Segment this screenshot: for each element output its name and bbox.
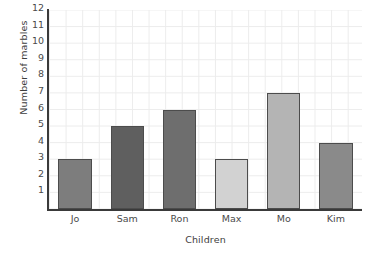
y-tick-label: 1 <box>22 185 44 195</box>
x-tick-label: Jo <box>49 212 101 226</box>
bar-series <box>49 10 362 209</box>
x-tick-label: Ron <box>153 212 205 226</box>
y-tick-label: 7 <box>22 86 44 96</box>
bar-chart: Number of marbles 123456789101112 JoSamR… <box>0 0 370 258</box>
x-tick-label: Mo <box>258 212 310 226</box>
bar-sam <box>111 126 144 209</box>
y-tick-label: 2 <box>22 169 44 179</box>
x-axis-title: Children <box>49 234 362 245</box>
bar-mo <box>267 93 300 209</box>
y-tick-label: 4 <box>22 136 44 146</box>
y-tick-label: 6 <box>22 103 44 113</box>
x-axis-tick-labels: JoSamRonMaxMoKim <box>49 212 362 228</box>
y-axis-tick-labels: 123456789101112 <box>22 8 44 208</box>
y-tick-label: 11 <box>22 20 44 30</box>
y-tick-label: 5 <box>22 119 44 129</box>
bar-kim <box>319 143 352 209</box>
x-tick-label: Sam <box>101 212 153 226</box>
x-tick-label: Kim <box>310 212 362 226</box>
y-tick-label: 12 <box>22 3 44 13</box>
bar-jo <box>58 159 91 209</box>
bar-ron <box>163 110 196 210</box>
x-tick-label: Max <box>206 212 258 226</box>
y-tick-label: 8 <box>22 69 44 79</box>
bar-max <box>215 159 248 209</box>
y-tick-label: 3 <box>22 152 44 162</box>
y-tick-label: 10 <box>22 36 44 46</box>
y-tick-label: 9 <box>22 53 44 63</box>
